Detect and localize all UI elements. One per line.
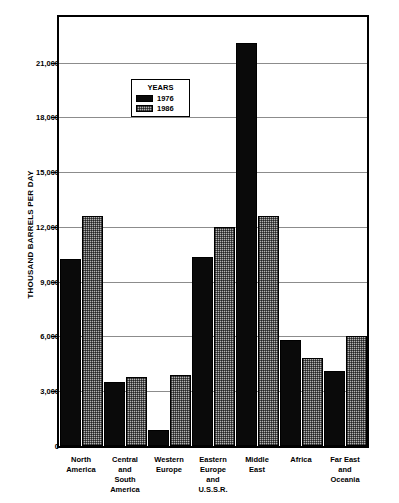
- gridline: [59, 172, 367, 173]
- bar-chart: THOUSAND BARRELS PER DAY 03,0006,0009,00…: [0, 0, 399, 503]
- bar-1986-1: [126, 377, 147, 446]
- bar-1986-0: [82, 216, 103, 446]
- gridline: [59, 282, 367, 283]
- x-axis-label-1: Central and South America: [103, 455, 147, 495]
- bar-1986-2: [170, 375, 191, 446]
- gridline: [59, 63, 367, 64]
- x-axis-label-0: North America: [59, 455, 103, 475]
- bar-1986-4: [258, 216, 279, 446]
- x-axis-label-6: Far East and Oceania: [323, 455, 367, 485]
- bar-1976-6: [324, 371, 345, 446]
- gridline: [59, 117, 367, 118]
- y-axis-title: THOUSAND BARRELS PER DAY: [26, 135, 35, 335]
- legend-entry-1986: 1986: [136, 105, 185, 113]
- legend-swatch-1986: [136, 105, 153, 112]
- bar-1976-5: [280, 340, 301, 446]
- gridline: [59, 391, 367, 392]
- legend-swatch-1976: [136, 95, 153, 102]
- bar-1976-2: [148, 430, 169, 446]
- bar-1976-4: [236, 43, 257, 446]
- y-axis-tick-label: 0: [13, 442, 59, 451]
- bar-1976-3: [192, 257, 213, 446]
- plot-area: [57, 15, 369, 448]
- x-axis-label-4: Middle East: [235, 455, 279, 475]
- x-axis-label-2: Western Europe: [147, 455, 191, 475]
- x-axis-label-3: Eastern Europe and U.S.S.R.: [191, 455, 235, 495]
- legend-label-1986: 1986: [157, 105, 174, 113]
- x-axis-label-5: Africa: [279, 455, 323, 465]
- bars-layer: [59, 17, 367, 446]
- gridline: [59, 336, 367, 337]
- bar-1976-0: [60, 259, 81, 446]
- bar-1986-5: [302, 358, 323, 446]
- legend-title: YEARS: [136, 83, 185, 92]
- legend-entry-1976: 1976: [136, 95, 185, 103]
- legend-entries: 19761986: [136, 95, 185, 112]
- legend: YEARS 19761986: [131, 79, 190, 117]
- legend-label-1976: 1976: [157, 95, 174, 103]
- gridline: [59, 227, 367, 228]
